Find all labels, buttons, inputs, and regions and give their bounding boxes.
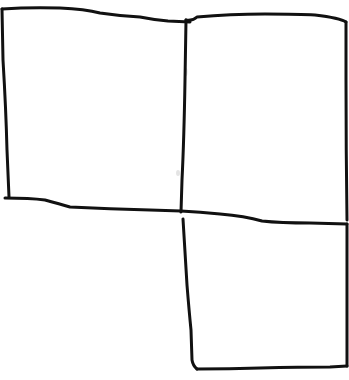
box-bottom-right-bottom-edge (197, 366, 347, 369)
box-bottom-right-left-edge (183, 219, 197, 369)
box-top-right-right-edge (346, 22, 347, 220)
box-top-right-top-edge (186, 14, 346, 22)
box-top-left-left-edge (2, 9, 9, 197)
box-top-left-top-edge (2, 8, 190, 22)
box-strokes (2, 8, 347, 369)
box-top-right-bottom-edge (181, 211, 347, 224)
sketch-canvas (0, 0, 349, 380)
shared-vertical-divider (181, 20, 186, 212)
box-top-left-bottom-edge (5, 198, 181, 211)
smudge-mark (176, 170, 180, 176)
sketch-drawing (0, 0, 349, 380)
